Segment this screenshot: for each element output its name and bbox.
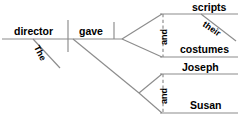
word-conjunction-indirect-object: and [160, 88, 169, 104]
sentence-diagram: director The gave scripts their and cost… [0, 0, 238, 120]
dobj-fork-lower [122, 39, 162, 57]
word-direct-object-scripts: scripts [192, 2, 226, 13]
word-indirect-object-susan: Susan [190, 100, 222, 111]
word-direct-object-costumes: costumes [180, 44, 229, 55]
indirect-object-slant [73, 39, 139, 93]
word-subject: director [14, 26, 53, 37]
word-indirect-object-joseph: Joseph [182, 62, 219, 73]
dobj-fork-upper [122, 14, 162, 39]
word-conjunction-direct-object: and [160, 29, 169, 45]
word-verb: gave [79, 26, 103, 37]
